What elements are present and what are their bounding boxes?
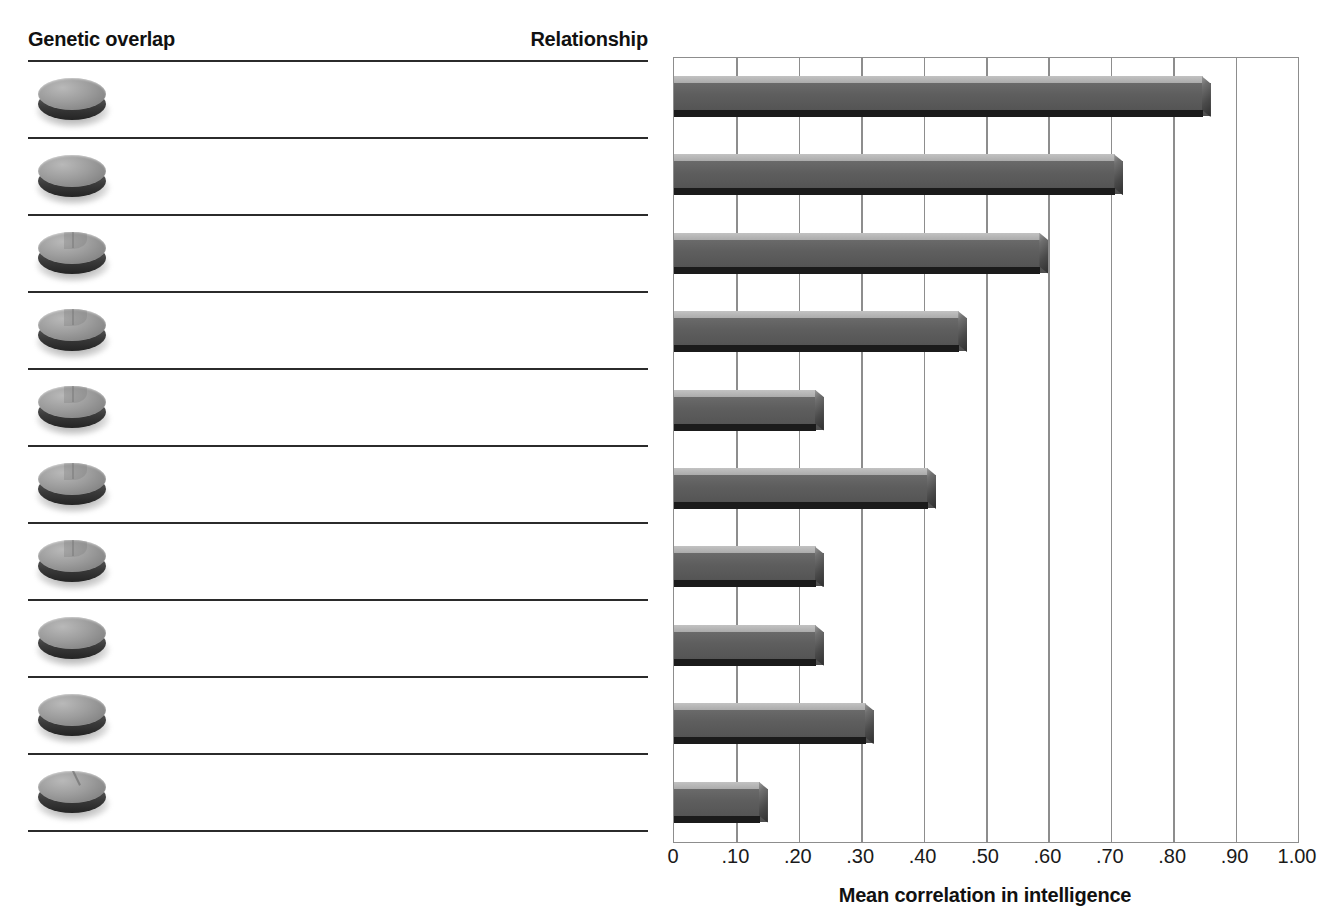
x-tick-label: 0 bbox=[667, 845, 678, 868]
genetic-overlap-table: Genetic overlap Relationship bbox=[0, 0, 660, 880]
x-tick-label: 1.00 bbox=[1278, 845, 1317, 868]
column-header-relationship: Relationship bbox=[530, 28, 648, 51]
table-row bbox=[28, 62, 648, 139]
disc-top bbox=[38, 617, 106, 649]
table-row bbox=[28, 216, 648, 293]
bar[interactable] bbox=[674, 468, 936, 508]
bar-base-shadow bbox=[674, 659, 816, 666]
table-header-row: Genetic overlap Relationship bbox=[28, 28, 648, 58]
bar-slot bbox=[674, 293, 1298, 370]
bar[interactable] bbox=[674, 782, 768, 822]
table-row bbox=[28, 370, 648, 447]
x-tick-label: .60 bbox=[1033, 845, 1061, 868]
bar-slot bbox=[674, 136, 1298, 213]
disc-wedge bbox=[38, 463, 106, 495]
x-tick-label: .80 bbox=[1158, 845, 1186, 868]
bar[interactable] bbox=[674, 154, 1123, 194]
bar-base-shadow bbox=[674, 188, 1115, 195]
x-axis-tick-labels: 0.10.20.30.40.50.60.70.80.901.00 bbox=[673, 845, 1297, 875]
bar[interactable] bbox=[674, 703, 874, 743]
bar-slot bbox=[674, 685, 1298, 762]
x-tick-label: .50 bbox=[971, 845, 999, 868]
disc-wedge bbox=[38, 232, 106, 264]
disc-icon bbox=[32, 74, 112, 130]
disc-icon bbox=[32, 228, 112, 284]
bar-slot bbox=[674, 215, 1298, 292]
disc-icon bbox=[32, 151, 112, 207]
disc-icon bbox=[32, 459, 112, 515]
disc-top bbox=[38, 155, 106, 187]
bar[interactable] bbox=[674, 311, 967, 351]
disc-icon bbox=[32, 382, 112, 438]
disc-wedge bbox=[38, 771, 106, 803]
table-row bbox=[28, 678, 648, 755]
bar[interactable] bbox=[674, 390, 824, 430]
x-tick-label: .90 bbox=[1221, 845, 1249, 868]
bar-base-shadow bbox=[674, 345, 959, 352]
bar-base-shadow bbox=[674, 267, 1040, 274]
x-tick-label: .70 bbox=[1096, 845, 1124, 868]
row-divider bbox=[28, 830, 648, 832]
plot-area bbox=[673, 57, 1299, 843]
bar-slot bbox=[674, 58, 1298, 135]
disc-icon bbox=[32, 690, 112, 746]
bar-slot bbox=[674, 764, 1298, 841]
table-row bbox=[28, 755, 648, 832]
bar-slot bbox=[674, 528, 1298, 605]
column-header-genetic-overlap: Genetic overlap bbox=[28, 28, 175, 51]
bar-slot bbox=[674, 450, 1298, 527]
disc-wedge bbox=[38, 386, 106, 418]
bar[interactable] bbox=[674, 233, 1048, 273]
bar-slot bbox=[674, 607, 1298, 684]
table-row bbox=[28, 447, 648, 524]
disc-icon bbox=[32, 767, 112, 823]
bar-base-shadow bbox=[674, 737, 866, 744]
x-tick-label: .40 bbox=[909, 845, 937, 868]
table-row bbox=[28, 293, 648, 370]
disc-icon bbox=[32, 305, 112, 361]
heritability-intelligence-figure: Genetic overlap Relationship 0.10.20.30.… bbox=[0, 0, 1329, 923]
x-tick-label: .20 bbox=[784, 845, 812, 868]
bar[interactable] bbox=[674, 546, 824, 586]
x-tick-label: .10 bbox=[721, 845, 749, 868]
bar-base-shadow bbox=[674, 580, 816, 587]
disc-wedge bbox=[38, 309, 106, 341]
x-axis-title: Mean correlation in intelligence bbox=[673, 884, 1297, 907]
bar-base-shadow bbox=[674, 502, 928, 509]
x-tick-label: .30 bbox=[846, 845, 874, 868]
bar-base-shadow bbox=[674, 816, 760, 823]
bar-slot bbox=[674, 372, 1298, 449]
table-row bbox=[28, 601, 648, 678]
table-row bbox=[28, 524, 648, 601]
bar-base-shadow bbox=[674, 110, 1203, 117]
bar[interactable] bbox=[674, 76, 1211, 116]
bar-chart-panel: 0.10.20.30.40.50.60.70.80.901.00 Mean co… bbox=[660, 0, 1329, 923]
disc-icon bbox=[32, 536, 112, 592]
table-row bbox=[28, 139, 648, 216]
disc-top bbox=[38, 694, 106, 726]
disc-top bbox=[38, 78, 106, 110]
disc-icon bbox=[32, 613, 112, 669]
bar-base-shadow bbox=[674, 424, 816, 431]
disc-wedge bbox=[38, 540, 106, 572]
bar[interactable] bbox=[674, 625, 824, 665]
